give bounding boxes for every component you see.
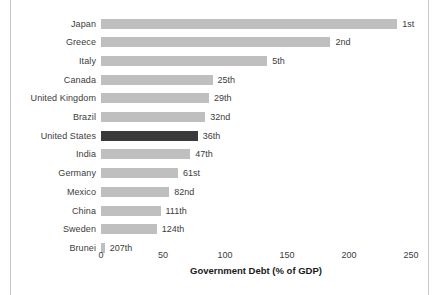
x-axis: 050100150200250 <box>0 250 448 266</box>
bar-row: Canada25th <box>0 70 448 89</box>
category-label: India <box>76 149 96 159</box>
x-tick-label: 150 <box>279 250 294 260</box>
bar <box>101 149 190 159</box>
bar-row: Germany61st <box>0 164 448 183</box>
bar <box>101 56 267 66</box>
bar-highlighted <box>101 131 198 141</box>
bar <box>101 187 169 197</box>
category-label: United States <box>41 131 96 141</box>
bar-row: Japan1st <box>0 14 448 33</box>
bar-rank-label: 1st <box>402 19 414 29</box>
bar-rank-label: 47th <box>195 149 213 159</box>
category-label: China <box>72 206 96 216</box>
bar-rank-label: 36th <box>203 131 221 141</box>
bar-rank-label: 29th <box>214 93 232 103</box>
x-tick-label: 200 <box>341 250 356 260</box>
category-label: Brazil <box>73 112 96 122</box>
bar <box>101 19 397 29</box>
category-label: Germany <box>58 168 96 178</box>
category-label: Greece <box>66 37 96 47</box>
bar-rank-label: 25th <box>218 75 236 85</box>
bar-row: Brazil32nd <box>0 108 448 127</box>
bar-row: United Kingdom29th <box>0 89 448 108</box>
bar-row: India47th <box>0 145 448 164</box>
bar-rank-label: 111th <box>166 206 187 216</box>
bar <box>101 168 178 178</box>
category-label: Sweden <box>63 224 96 234</box>
category-label: Mexico <box>67 187 96 197</box>
bar-row: United States36th <box>0 126 448 145</box>
bar <box>101 206 161 216</box>
bar-rank-label: 2nd <box>335 37 350 47</box>
category-label: Canada <box>64 75 96 85</box>
x-tick-label: 250 <box>403 250 418 260</box>
bar-rank-label: 32nd <box>210 112 230 122</box>
government-debt-bar-chart: Japan1stGreece2ndItaly5thCanada25thUnite… <box>0 0 448 295</box>
bar <box>101 75 213 85</box>
bar-row: Sweden124th <box>0 220 448 239</box>
bar <box>101 93 209 103</box>
category-label: United Kingdom <box>31 93 96 103</box>
bar-rank-label: 61st <box>183 168 200 178</box>
category-label: Italy <box>79 56 96 66</box>
x-tick-label: 0 <box>98 250 103 260</box>
bar-rank-label: 5th <box>272 56 285 66</box>
x-axis-title: Government Debt (% of GDP) <box>101 265 411 276</box>
bar-row: Mexico82nd <box>0 182 448 201</box>
bar-rank-label: 82nd <box>174 187 194 197</box>
category-label: Japan <box>71 19 96 29</box>
bar-row: China111th <box>0 201 448 220</box>
bar <box>101 112 205 122</box>
bar-row: Italy5th <box>0 51 448 70</box>
x-tick-label: 100 <box>217 250 232 260</box>
plot-area: Japan1stGreece2ndItaly5thCanada25thUnite… <box>0 0 448 248</box>
bar <box>101 224 157 234</box>
x-tick-label: 50 <box>158 250 168 260</box>
bar <box>101 37 330 47</box>
bar-row: Greece2nd <box>0 33 448 52</box>
bar-rank-label: 124th <box>162 224 185 234</box>
